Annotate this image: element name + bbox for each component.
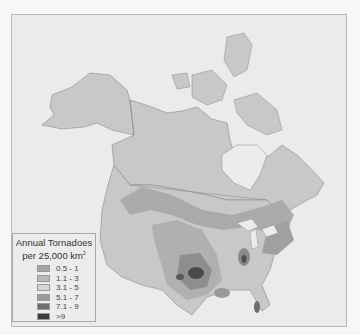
legend-item: 5.1 - 7 bbox=[37, 293, 95, 303]
legend-swatch bbox=[37, 265, 50, 272]
map-legend: Annual Tornadoes per 25,000 km2 0.5 - 1 … bbox=[12, 233, 96, 322]
legend-item: 0.5 - 1 bbox=[37, 264, 95, 274]
legend-unit-sup: 2 bbox=[83, 250, 86, 256]
legend-title-line1: Annual Tornadoes bbox=[13, 237, 95, 248]
legend-swatch bbox=[37, 275, 50, 282]
legend-label: 1.1 - 3 bbox=[56, 274, 79, 283]
legend-item: 1.1 - 3 bbox=[37, 274, 95, 284]
legend-label: 7.1 - 9 bbox=[56, 302, 79, 311]
tornado-hotspot bbox=[188, 267, 204, 279]
legend-swatch bbox=[37, 294, 50, 301]
legend-items: 0.5 - 1 1.1 - 3 3.1 - 5 5.1 - 7 7.1 - 9 … bbox=[37, 264, 95, 321]
legend-item: 7.1 - 9 bbox=[37, 302, 95, 312]
legend-item: 3.1 - 5 bbox=[37, 283, 95, 293]
legend-swatch bbox=[37, 313, 50, 320]
legend-title-line2: per 25,000 km2 bbox=[13, 248, 95, 261]
legend-label: >9 bbox=[56, 312, 65, 321]
legend-swatch bbox=[37, 303, 50, 310]
legend-swatch bbox=[37, 284, 50, 291]
legend-unit: per 25,000 km bbox=[22, 250, 83, 261]
legend-label: 3.1 - 5 bbox=[56, 283, 79, 292]
legend-title: Annual Tornadoes per 25,000 km2 bbox=[13, 237, 95, 261]
legend-label: 5.1 - 7 bbox=[56, 293, 79, 302]
legend-item: >9 bbox=[37, 312, 95, 322]
legend-label: 0.5 - 1 bbox=[56, 264, 79, 273]
